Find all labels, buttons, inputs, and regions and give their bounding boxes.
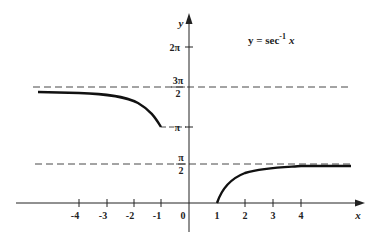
y-tick-label-pi-num: π xyxy=(178,152,184,163)
x-tick-label: 4 xyxy=(299,210,304,221)
x-axis-label: x xyxy=(354,209,361,221)
x-axis-arrow-icon xyxy=(355,200,365,207)
x-tick-label: -4 xyxy=(71,210,79,221)
chart-title: y = sec-1x xyxy=(248,32,295,46)
y-tick-label-pi: π xyxy=(175,122,181,133)
curve-left-branch xyxy=(38,92,161,127)
y-tick-label-2pi: 2π xyxy=(170,42,181,53)
y-axis-label: y xyxy=(177,17,184,29)
curve-right-branch xyxy=(217,166,351,203)
x-tick-label: 2 xyxy=(243,210,248,221)
x-tick-label: 1 xyxy=(215,210,220,221)
x-tick-label: 0 xyxy=(181,210,186,221)
chart-canvas: -4 -3 -2 -1 0 1 2 3 4 2π π 3π 2 π 2 x y … xyxy=(0,0,374,246)
y-tick-label-3pi-den: 2 xyxy=(176,88,181,99)
x-tick-label: 3 xyxy=(271,210,276,221)
y-axis-arrow-icon xyxy=(186,13,193,24)
x-tick-label: -1 xyxy=(153,210,161,221)
y-tick-label-pi-den: 2 xyxy=(179,165,184,176)
y-tick-label-3pi-num: 3π xyxy=(173,75,184,86)
x-tick-label: -2 xyxy=(126,210,134,221)
x-tick-label: -3 xyxy=(99,210,107,221)
